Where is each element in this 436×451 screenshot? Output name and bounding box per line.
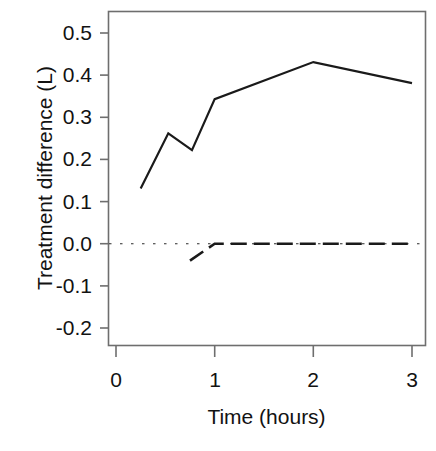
- x-axis-title: Time (hours): [108, 405, 425, 429]
- y-axis-title: Treatment difference (L): [30, 11, 60, 345]
- series-solid-treatment-difference: [141, 62, 412, 188]
- x-tick-label-0: 0: [110, 368, 122, 392]
- y-axis-ticks: [100, 33, 109, 328]
- chart-figure: 0.5 0.4 0.3 0.2 0.1 0.0 -0.1 -0.2 0 1 2 …: [0, 0, 436, 451]
- series-dashed-comparator: [190, 244, 412, 261]
- x-tick-label-2: 2: [307, 368, 319, 392]
- plot-frame: [109, 12, 426, 346]
- x-axis-ticks: [116, 346, 412, 358]
- x-tick-label-1: 1: [209, 368, 221, 392]
- x-tick-label-3: 3: [406, 368, 418, 392]
